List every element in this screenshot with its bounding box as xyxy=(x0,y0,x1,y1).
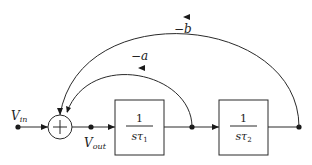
gain-label-a: −a xyxy=(131,49,148,63)
arrow-icon xyxy=(108,124,115,130)
output-node xyxy=(88,124,93,129)
svg-text:1: 1 xyxy=(136,112,143,125)
arrow-icon xyxy=(138,65,145,71)
arrow-icon xyxy=(212,124,219,130)
output-label: Vout xyxy=(84,136,107,151)
gain-label-b: −b xyxy=(174,22,192,36)
transfer-block-1: 1 sτ1 xyxy=(115,100,164,155)
input-path xyxy=(15,124,48,130)
transfer-block-2: 1 sτ2 xyxy=(219,100,268,155)
input-label: Vin xyxy=(11,109,27,124)
arrow-icon xyxy=(183,14,190,20)
arrow-icon xyxy=(66,106,71,113)
arrow-icon xyxy=(41,124,48,130)
svg-text:1: 1 xyxy=(240,112,247,125)
summing-junction xyxy=(48,115,72,139)
arrow-icon xyxy=(57,108,63,115)
block-diagram: Vin Vout 1 sτ1 1 sτ2 −a −b xyxy=(0,0,312,165)
